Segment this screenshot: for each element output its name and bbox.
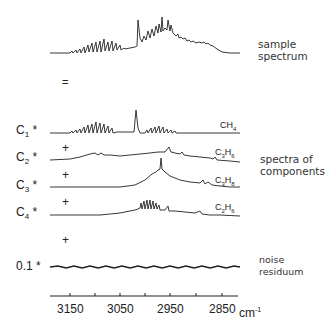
c3h8-spectrum-curve: [50, 158, 240, 187]
formula-ch4: CH4: [220, 120, 236, 134]
equals-sign: =: [62, 76, 68, 88]
c3h6-spectrum-curve: [50, 147, 240, 162]
sample-label-line2: spectrum: [258, 50, 308, 62]
noise-label-line1: noise: [259, 254, 303, 266]
plus-sign-noise: +: [62, 234, 69, 246]
formula-c3h6: C3H6: [215, 147, 235, 161]
tick-label-2950: 2950: [157, 303, 184, 316]
tick-label-2850: 2850: [209, 303, 236, 316]
coef-c3: C3 *: [16, 179, 37, 196]
plus-sign-c3: +: [62, 169, 69, 181]
tick-label-3050: 3050: [107, 303, 134, 316]
noise-residuum-curve: [50, 266, 240, 268]
c2h6-spectrum-curve: [50, 200, 240, 216]
axis-unit-label: cm-1: [239, 303, 261, 320]
plus-sign-c2: +: [62, 142, 69, 154]
sample-label-line1: sample: [258, 38, 308, 50]
formula-c2h6: C2H6: [215, 202, 235, 216]
components-label-line1: spectra of: [260, 153, 325, 165]
ch4-spectrum-curve: [50, 110, 240, 133]
coef-c4: C4 *: [16, 206, 37, 223]
plus-sign-c4: +: [62, 196, 69, 208]
components-label-line2: components: [260, 165, 325, 177]
formula-c3h8: C3H8: [215, 175, 235, 189]
coef-c2: C2 *: [16, 151, 37, 168]
components-label: spectra of components: [260, 153, 325, 177]
coef-c1: C1 *: [16, 124, 37, 141]
sample-spectrum-curve: [50, 17, 240, 53]
noise-label-line2: residuum: [259, 266, 303, 278]
noise-residuum-label: noise residuum: [259, 254, 303, 278]
coef-noise: 0.1 *: [16, 260, 41, 273]
tick-label-3150: 3150: [57, 303, 84, 316]
sample-spectrum-label: sample spectrum: [258, 38, 308, 62]
